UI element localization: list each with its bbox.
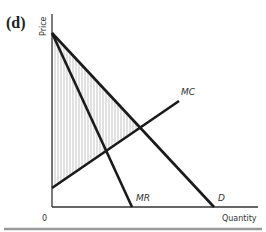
surplus-hatched-region [52, 33, 139, 188]
y-axis-label: Price [39, 16, 48, 36]
mr-label: MR [136, 193, 150, 203]
diagram-figure: (d) Price MC MR D 0 Quantity [0, 0, 266, 232]
x-axis-label: Quantity [222, 214, 257, 223]
mc-label: MC [181, 87, 196, 97]
origin-label: 0 [42, 214, 47, 223]
d-label: D [218, 193, 225, 203]
panel-label: (d) [6, 14, 26, 32]
